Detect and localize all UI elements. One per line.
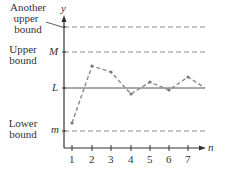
x-tick-label-2: 2 — [89, 154, 95, 165]
sequence-points — [70, 64, 189, 124]
x-axis-label: n — [208, 142, 214, 153]
limit-symbol: L — [52, 82, 58, 93]
sequence-point-6 — [167, 88, 170, 91]
sequence-point-5 — [148, 80, 151, 83]
another-upper-label: Another upper bound — [2, 2, 54, 35]
lower-bound-label: Lower bound — [0, 118, 46, 140]
sequence-point-2 — [90, 64, 93, 67]
lower-bound-symbol: m — [51, 124, 59, 135]
x-tick-label-1: 1 — [69, 154, 75, 165]
sequence-point-3 — [109, 70, 112, 73]
x-tick-label-3: 3 — [108, 154, 114, 165]
sequence-point-7 — [186, 75, 189, 78]
x-tick-label-5: 5 — [147, 154, 153, 165]
sequence-path — [72, 66, 205, 123]
sequence-point-1 — [70, 121, 73, 124]
x-tick-label-4: 4 — [128, 154, 134, 165]
y-axis-arrow-icon — [62, 15, 67, 22]
y-axis-label: y — [61, 3, 66, 14]
x-tick-label-6: 6 — [166, 154, 172, 165]
bounded-sequence-diagram: Another upper bound Upper bound Lower bo… — [0, 0, 226, 173]
upper-bound-label: Upper bound — [0, 44, 46, 66]
sequence-point-4 — [129, 92, 132, 95]
x-axis-arrow-icon — [199, 146, 206, 151]
x-tick-label-7: 7 — [185, 154, 191, 165]
upper-bound-symbol: M — [49, 46, 58, 57]
